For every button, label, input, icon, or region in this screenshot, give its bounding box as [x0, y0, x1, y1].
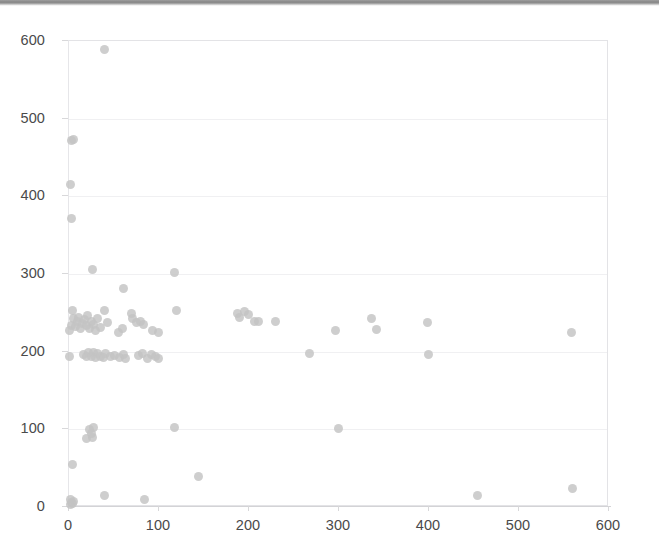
data-point — [69, 135, 78, 144]
data-point — [170, 268, 179, 277]
y-axis-tick-label-200: 200 — [0, 343, 45, 358]
data-point — [170, 423, 179, 432]
data-point — [473, 491, 482, 500]
x-axis-line — [62, 506, 611, 507]
y-axis-tick-mark-500 — [62, 118, 68, 119]
data-point — [100, 491, 109, 500]
plot-frame — [68, 40, 608, 506]
x-axis-tick-label-300: 300 — [308, 518, 368, 533]
data-point — [271, 317, 280, 326]
scatter-chart: 60050040030020010000100200300400500600 — [0, 0, 659, 559]
y-axis-tick-label-500: 500 — [0, 110, 45, 125]
data-point — [194, 472, 203, 481]
x-axis-tick-label-600: 600 — [578, 518, 638, 533]
x-axis-tick-label-500: 500 — [488, 518, 548, 533]
gridline-y-500 — [69, 119, 607, 120]
x-axis-tick-label-0: 0 — [38, 518, 98, 533]
data-point — [88, 265, 97, 274]
data-point — [331, 326, 340, 335]
x-axis-tick-label-200: 200 — [218, 518, 278, 533]
y-axis-tick-label-600: 600 — [0, 33, 45, 48]
gridline-y-400 — [69, 196, 607, 197]
data-point — [334, 424, 343, 433]
data-point — [423, 318, 432, 327]
data-point — [424, 350, 433, 359]
data-point — [100, 306, 109, 315]
y-axis-tick-label-0: 0 — [0, 499, 45, 514]
data-point — [139, 320, 148, 329]
data-point — [118, 324, 127, 333]
x-axis-tick-mark-500 — [518, 506, 519, 511]
y-axis-tick-label-400: 400 — [0, 188, 45, 203]
data-point — [154, 354, 163, 363]
x-axis-tick-label-400: 400 — [398, 518, 458, 533]
data-point — [121, 354, 130, 363]
data-point — [65, 352, 74, 361]
x-axis-tick-mark-600 — [608, 506, 609, 511]
data-point — [154, 328, 163, 337]
x-axis-tick-mark-100 — [158, 506, 159, 511]
y-axis-tick-label-300: 300 — [0, 266, 45, 281]
x-axis-tick-mark-400 — [428, 506, 429, 511]
data-point — [567, 328, 576, 337]
x-axis-tick-label-100: 100 — [128, 518, 188, 533]
gridline-y-300 — [69, 274, 607, 275]
data-point — [305, 349, 314, 358]
y-axis-tick-mark-600 — [62, 40, 68, 41]
data-point — [568, 484, 577, 493]
data-point — [140, 495, 149, 504]
data-point — [172, 306, 181, 315]
x-axis-tick-mark-200 — [248, 506, 249, 511]
y-axis-tick-mark-400 — [62, 195, 68, 196]
y-axis-tick-label-100: 100 — [0, 421, 45, 436]
y-axis-tick-mark-300 — [62, 273, 68, 274]
x-axis-tick-mark-300 — [338, 506, 339, 511]
y-axis-tick-mark-100 — [62, 428, 68, 429]
